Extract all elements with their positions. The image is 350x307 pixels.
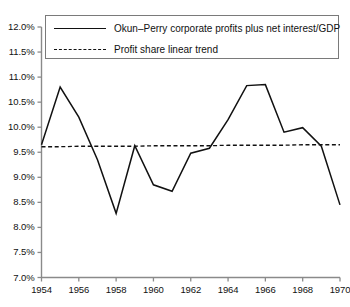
x-axis-tick-label: 1954 xyxy=(31,285,52,295)
legend-entry-profits: Okun–Perry corporate profits plus net in… xyxy=(46,17,338,39)
legend-entry-label: Okun–Perry corporate profits plus net in… xyxy=(114,23,340,34)
y-axis-tick-label: 11.5% xyxy=(0,47,35,57)
y-axis-tick-label: 12.0% xyxy=(0,22,35,32)
y-axis-tick-label: 7.5% xyxy=(0,247,35,257)
y-axis-tick-label: 7.0% xyxy=(0,273,35,283)
y-axis-tick-label: 10.0% xyxy=(0,122,35,132)
x-axis-tick-label: 1964 xyxy=(218,285,239,295)
legend-solid-line-icon xyxy=(54,23,106,33)
x-axis-tick-label: 1956 xyxy=(68,285,89,295)
legend-entry-trend: Profit share linear trend xyxy=(46,38,338,60)
chart-legend: Okun–Perry corporate profits plus net in… xyxy=(45,15,339,59)
trend-line-series xyxy=(42,145,341,147)
y-axis-tick-label: 8.0% xyxy=(0,222,35,232)
x-axis-tick-label: 1970 xyxy=(330,285,350,295)
y-axis-tick-label: 8.5% xyxy=(0,197,35,207)
y-axis-tick-label: 9.5% xyxy=(0,147,35,157)
x-axis-tick-label: 1966 xyxy=(255,285,276,295)
legend-entry-label: Profit share linear trend xyxy=(114,44,218,55)
x-axis-tick-label: 1958 xyxy=(106,285,127,295)
y-axis-tick-label: 11.0% xyxy=(0,72,35,82)
x-axis-tick-label: 1968 xyxy=(292,285,313,295)
x-axis-tick-label: 1960 xyxy=(143,285,164,295)
profits-line-series xyxy=(42,85,341,214)
y-axis-tick-label: 9.0% xyxy=(0,172,35,182)
legend-dashed-line-icon xyxy=(54,44,106,54)
y-axis-tick-label: 10.5% xyxy=(0,97,35,107)
x-axis-tick-label: 1962 xyxy=(180,285,201,295)
